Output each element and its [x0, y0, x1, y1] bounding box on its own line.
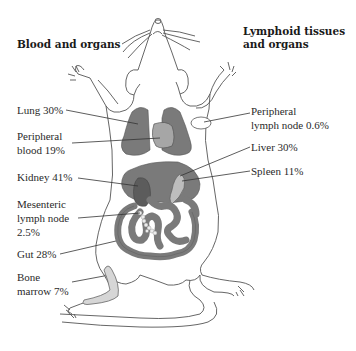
label-peripheral-lymph-node: Peripheral lymph node 0.6%: [251, 104, 329, 132]
label-gut-text: Gut 28%: [17, 247, 56, 261]
leader-gut: [60, 241, 116, 254]
label-lung: Lung 30%: [17, 103, 63, 117]
label-lung-text: Lung 30%: [17, 103, 63, 117]
header-lymphoid-tissues: Lymphoid tissues and organs: [243, 25, 345, 51]
mouse-anatomy-diagram: Blood and organs Lymphoid tissues and or…: [0, 0, 356, 351]
bone-marrow-shape: [83, 266, 118, 305]
label-peripheral-blood-line2: blood 19%: [17, 143, 65, 157]
label-mesenteric-line2: lymph node: [17, 211, 69, 225]
label-kidney: Kidney 41%: [17, 170, 72, 184]
label-peripheral-lymph-node-line2: lymph node 0.6%: [251, 118, 329, 132]
label-bone-marrow: Bone marrow 7%: [17, 270, 69, 298]
peripheral-lymph-node-shape: [191, 117, 211, 129]
heart-shape: [152, 122, 174, 148]
label-mesenteric-line1: Mesenteric: [17, 197, 69, 211]
header-right-line1: Lymphoid tissues: [243, 25, 345, 38]
label-gut: Gut 28%: [17, 247, 56, 261]
header-right-line2: and organs: [243, 38, 345, 51]
head-outline: [150, 20, 178, 70]
label-mesenteric-line3: 2.5%: [17, 225, 69, 239]
leader-lung: [66, 110, 138, 124]
label-mesenteric-lymph-node: Mesenteric lymph node 2.5%: [17, 197, 69, 239]
leader-peripheral-lymph-node: [204, 113, 250, 122]
lung-left-shape: [121, 107, 150, 155]
label-liver-text: Liver 30%: [251, 140, 298, 154]
leader-bone-marrow: [72, 276, 104, 282]
label-peripheral-lymph-node-line1: Peripheral: [251, 104, 329, 118]
gut-shape: [118, 200, 196, 257]
header-left-text: Blood and organs: [17, 38, 121, 50]
liver-shape: [122, 162, 200, 203]
label-spleen: Spleen 11%: [251, 164, 303, 178]
label-kidney-text: Kidney 41%: [17, 170, 72, 184]
label-bone-marrow-line1: Bone: [17, 270, 69, 284]
label-spleen-text: Spleen 11%: [251, 164, 303, 178]
right-arm: [180, 70, 224, 106]
body-left-outline: [96, 106, 113, 275]
label-liver: Liver 30%: [251, 140, 298, 154]
whiskers: [122, 30, 200, 58]
right-ear: [176, 70, 188, 94]
label-bone-marrow-line2: marrow 7%: [17, 284, 69, 298]
leader-mesenteric: [78, 213, 140, 218]
header-blood-and-organs: Blood and organs: [17, 38, 121, 51]
label-peripheral-blood: Peripheral blood 19%: [17, 129, 65, 157]
left-ear: [126, 70, 140, 95]
label-peripheral-blood-line1: Peripheral: [17, 129, 65, 143]
